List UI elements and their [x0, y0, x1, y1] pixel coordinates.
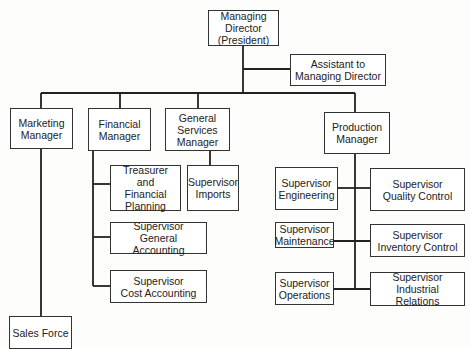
node-supervisor-operations: SupervisorOperations: [275, 272, 334, 305]
node-label: Engineering: [278, 189, 334, 201]
node-label: Imports: [196, 188, 231, 200]
node-label: Treasurer and: [123, 164, 168, 188]
node-treasurer: Treasurer andFinancialPlanning: [110, 165, 181, 211]
node-supervisor-general-accounting: SupervisorGeneral Accounting: [110, 222, 207, 254]
node-label: (President): [218, 34, 269, 46]
node-label: Manager: [177, 136, 218, 148]
node-label: Production: [332, 121, 382, 133]
node-label: Assistant to: [311, 58, 365, 70]
node-label: Manager: [336, 133, 377, 145]
node-label: Supervisor: [133, 220, 183, 232]
node-assistant: Assistant toManaging Director: [290, 54, 386, 86]
node-label: Operations: [279, 289, 330, 301]
node-label: Supervisor: [392, 178, 442, 190]
node-managing-director: Managing Director(President): [208, 10, 279, 46]
node-label: Supervisor: [281, 177, 331, 189]
node-marketing-manager: MarketingManager: [10, 108, 73, 149]
node-label: Supervisor: [133, 275, 183, 287]
node-label: Quality Control: [383, 190, 452, 202]
node-label: General Accounting: [133, 232, 185, 256]
node-supervisor-cost-accounting: SupervisorCost Accounting: [110, 270, 207, 303]
node-label: Planning: [125, 200, 166, 212]
node-sales-force: Sales Force: [9, 316, 72, 349]
node-label: General: [179, 112, 216, 124]
node-label: Supervisor: [279, 277, 329, 289]
node-production-manager: ProductionManager: [324, 112, 390, 154]
node-label: Supervisor: [279, 223, 329, 235]
node-supervisor-industrial-relations: SupervisorIndustrial Relations: [370, 272, 465, 306]
node-general-services-manager: GeneralServicesManager: [165, 108, 230, 151]
node-label: Managing Director: [220, 10, 266, 34]
node-label: Services: [177, 124, 217, 136]
node-supervisor-inventory-control: SupervisorInventory Control: [370, 224, 465, 257]
node-financial-manager: FinancialManager: [88, 108, 151, 151]
node-label: Financial: [98, 118, 140, 130]
node-label: Industrial Relations: [396, 283, 440, 307]
node-supervisor-imports: SupervisorImports: [187, 165, 239, 211]
node-label: Inventory Control: [378, 241, 458, 253]
node-supervisor-quality-control: SupervisorQuality Control: [370, 168, 465, 211]
node-label: Manager: [99, 130, 140, 142]
node-supervisor-maintenance: SupervisorMaintenance: [275, 222, 334, 248]
node-label: Maintenance: [274, 235, 334, 247]
node-label: Manager: [21, 129, 62, 141]
node-label: Sales Force: [12, 327, 68, 339]
node-label: Supervisor: [392, 271, 442, 283]
node-label: Cost Accounting: [121, 287, 197, 299]
node-label: Financial: [124, 188, 166, 200]
node-label: Marketing: [18, 117, 64, 129]
node-label: Supervisor: [392, 229, 442, 241]
node-label: Managing Director: [295, 70, 381, 82]
node-label: Supervisor: [188, 176, 238, 188]
node-supervisor-engineering: SupervisorEngineering: [275, 167, 338, 210]
